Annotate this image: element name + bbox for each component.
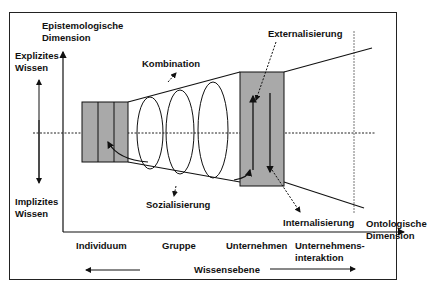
organisation-box [240, 72, 284, 186]
internalisierung-label: Internalisierung [283, 217, 354, 229]
individual-box [82, 102, 128, 162]
externalisierung-label: Externalisierung [268, 28, 342, 40]
y-axis-title: EpistemologischeDimension [42, 20, 123, 44]
x-axis-title: OntologischeDimension [366, 218, 427, 242]
wissensebene-label: Wissensebene [194, 264, 260, 276]
level-unternehmensinteraktion: Unternehmens-interaktion [295, 240, 365, 264]
level-unternehmen: Unternehmen [226, 240, 287, 252]
implicit-knowledge-label: ImplizitesWissen [15, 196, 58, 220]
explicit-knowledge-label: ExplizitesWissen [15, 50, 59, 74]
level-individuum: Individuum [76, 240, 127, 252]
kombination-label: Kombination [142, 58, 200, 70]
level-gruppe: Gruppe [162, 240, 196, 252]
sozialisierung-label: Sozialisierung [146, 199, 210, 211]
